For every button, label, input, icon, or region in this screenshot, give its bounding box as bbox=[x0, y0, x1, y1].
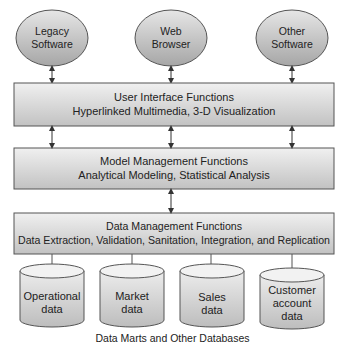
model-layer-label: Model Management Functions Analytical Mo… bbox=[14, 154, 334, 182]
legacy-software-label: Legacy Software bbox=[16, 25, 88, 50]
label-line: data bbox=[180, 304, 244, 317]
label-line: Legacy bbox=[16, 25, 88, 38]
layer-subtitle: Analytical Modeling, Statistical Analysi… bbox=[14, 168, 334, 182]
label-line: account bbox=[260, 297, 324, 310]
label-line: Software bbox=[16, 38, 88, 51]
layer-title: Model Management Functions bbox=[14, 154, 334, 168]
label-line: Software bbox=[256, 38, 328, 51]
label-line: Sales bbox=[180, 291, 244, 304]
label-line: Operational bbox=[20, 290, 84, 303]
web-browser-label: Web Browser bbox=[135, 25, 207, 50]
label-line: data bbox=[20, 303, 84, 316]
label-line: Other bbox=[256, 25, 328, 38]
layer-subtitle: Data Extraction, Validation, Sanitation,… bbox=[14, 233, 334, 247]
label-line: Browser bbox=[135, 38, 207, 51]
customer-account-data-label: Customer account data bbox=[260, 284, 324, 323]
layer-title: Data Management Functions bbox=[14, 219, 334, 233]
data-layer-label: Data Management Functions Data Extractio… bbox=[14, 219, 334, 247]
sales-data-label: Sales data bbox=[180, 291, 244, 317]
operational-data-label: Operational data bbox=[20, 290, 84, 316]
label-line: data bbox=[100, 303, 164, 316]
market-data-label: Market data bbox=[100, 290, 164, 316]
label-line: data bbox=[260, 310, 324, 323]
layer-subtitle: Hyperlinked Multimedia, 3-D Visualizatio… bbox=[14, 104, 334, 118]
label-line: Market bbox=[100, 290, 164, 303]
ui-layer-label: User Interface Functions Hyperlinked Mul… bbox=[14, 90, 334, 118]
footer-caption: Data Marts and Other Databases bbox=[0, 332, 345, 345]
other-software-label: Other Software bbox=[256, 25, 328, 50]
layer-title: User Interface Functions bbox=[14, 90, 334, 104]
label-line: Customer bbox=[260, 284, 324, 297]
label-line: Web bbox=[135, 25, 207, 38]
